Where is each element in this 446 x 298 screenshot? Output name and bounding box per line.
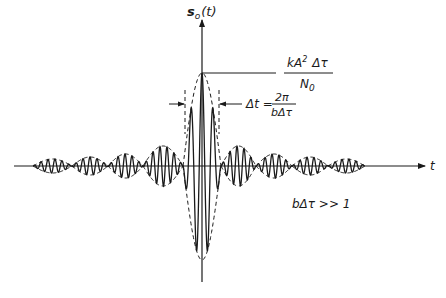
delta-t-annotation: Δt = 2π bΔτ bbox=[245, 91, 296, 119]
delta-t-denominator: bΔτ bbox=[271, 106, 293, 119]
peak-numerator: kA2Δτ bbox=[287, 55, 328, 70]
delta-t-numerator: 2π bbox=[275, 91, 289, 104]
peak-value-annotation: kA2Δτ N0 bbox=[284, 55, 333, 93]
peak-denominator: N0 bbox=[300, 77, 315, 93]
y-axis-label: so(t) bbox=[187, 4, 217, 21]
compressed-pulse-diagram: so(t) t kA2Δτ N0 Δt = 2π bΔτ bΔτ >> 1 bbox=[0, 0, 446, 298]
delta-t-lhs: Δt = bbox=[245, 97, 273, 111]
carrier-waveform bbox=[33, 73, 365, 250]
x-axis-label: t bbox=[430, 159, 436, 173]
condition-label: bΔτ >> 1 bbox=[292, 197, 350, 211]
